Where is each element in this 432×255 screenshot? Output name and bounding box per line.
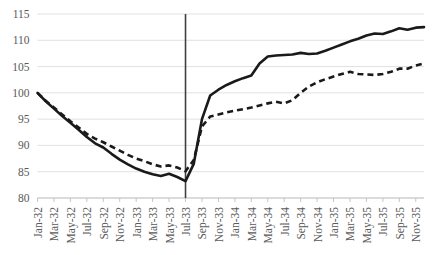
x-tick-label: Jan-35 [328, 207, 340, 238]
x-tick-label: Jan-33 [131, 207, 143, 238]
y-tick-label: 95 [18, 113, 30, 125]
x-axis-tick-labels: Jan-32Mar-32May-32Jul-32Sep-32Nov-32Jan-… [32, 207, 422, 244]
line-chart: 80859095100105110115 Jan-32Mar-32May-32J… [0, 0, 432, 255]
y-tick-label: 90 [18, 139, 30, 151]
x-tick-label: Mar-33 [147, 207, 159, 242]
x-tick-label: Mar-32 [48, 207, 60, 242]
x-tick-label: Nov-34 [312, 207, 324, 242]
x-tick-label: Jul-32 [81, 207, 93, 236]
x-tick-label: Jan-34 [229, 207, 241, 238]
y-tick-label: 80 [18, 192, 30, 204]
x-tick-label: Jul-35 [377, 207, 389, 236]
x-tick-label: Mar-35 [344, 207, 356, 242]
x-tick-label: Mar-34 [246, 207, 258, 242]
y-axis-tick-labels: 80859095100105110115 [12, 8, 30, 204]
y-tick-label: 100 [12, 87, 30, 99]
chart-container: 80859095100105110115 Jan-32Mar-32May-32J… [0, 0, 432, 255]
x-tick-label: May-34 [262, 207, 275, 244]
data-series [38, 27, 425, 181]
solid-series [38, 27, 425, 181]
x-tick-label: Nov-35 [410, 207, 422, 242]
y-tick-label: 115 [13, 8, 30, 20]
gridlines [38, 14, 425, 198]
x-tick-label: Nov-33 [213, 207, 225, 242]
x-tick-label: Sep-35 [394, 207, 407, 240]
x-tick-label: Sep-32 [98, 207, 111, 240]
x-tick-label: Jul-34 [279, 207, 291, 236]
x-tick-label: Sep-34 [295, 207, 308, 240]
axis [38, 198, 425, 202]
x-tick-label: Jul-33 [180, 207, 192, 236]
x-tick-label: May-32 [65, 207, 78, 244]
y-tick-label: 110 [13, 34, 30, 46]
x-tick-label: May-33 [164, 207, 177, 244]
dashed-series [38, 63, 425, 171]
x-tick-label: Nov-32 [114, 207, 126, 242]
x-tick-label: May-35 [361, 207, 374, 244]
x-tick-label: Jan-32 [32, 207, 44, 238]
x-tick-label: Sep-33 [196, 207, 209, 240]
y-tick-label: 105 [12, 61, 30, 73]
y-tick-label: 85 [18, 166, 30, 178]
